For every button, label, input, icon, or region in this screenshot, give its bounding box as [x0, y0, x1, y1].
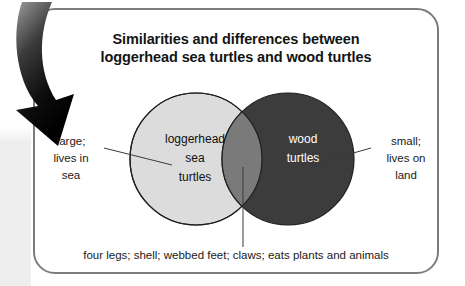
venn-label-right-line-2: turtles — [262, 149, 344, 168]
right-traits-label: small; lives on land — [373, 133, 439, 184]
venn-label-left-line-3: turtles — [143, 168, 247, 187]
left-traits-line-3: sea — [40, 167, 102, 184]
venn-label-right-line-1: wood — [262, 130, 344, 149]
venn-label-left-line-1: loggerhead — [143, 130, 247, 149]
right-traits-line-2: lives on — [373, 150, 439, 167]
left-traits-line-1: large; — [40, 133, 102, 150]
curved-down-arrow-icon — [16, 2, 74, 146]
venn-label-right-set: wood turtles — [262, 130, 344, 168]
venn-label-left-set: loggerhead sea turtles — [143, 130, 247, 187]
venn-label-left-line-2: sea — [143, 149, 247, 168]
right-traits-line-3: land — [373, 167, 439, 184]
left-traits-label: large; lives in sea — [40, 133, 102, 184]
right-traits-line-1: small; — [373, 133, 439, 150]
shared-traits-label: four legs; shell; webbed feet; claws; ea… — [33, 249, 439, 261]
left-traits-line-2: lives in — [40, 150, 102, 167]
screenshot-root: Similarities and differences between log… — [0, 0, 465, 286]
